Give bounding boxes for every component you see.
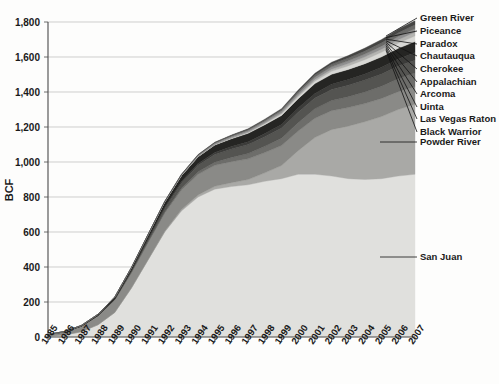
legend-label-las-vegas-raton: Las Vegas Raton <box>420 113 496 124</box>
legend-label-powder-river: Powder River <box>420 136 481 147</box>
y-tick-label: 200 <box>23 297 40 308</box>
y-tick-label: 1,000 <box>15 157 40 168</box>
legend-label-uinta: Uinta <box>420 101 444 112</box>
areas-group <box>48 21 415 337</box>
stacked-area-chart: 02004006008001,0001,2001,4001,6001,800 1… <box>0 0 499 384</box>
legend-label-appalachian: Appalachian <box>420 76 477 87</box>
legend-label-piceance: Piceance <box>420 25 461 36</box>
chart-page: 02004006008001,0001,2001,4001,6001,800 1… <box>0 0 499 384</box>
legend-label-arcoma: Arcoma <box>420 88 456 99</box>
y-tick-label: 1,800 <box>15 17 40 28</box>
y-tick-label: 400 <box>23 262 40 273</box>
legend-label-paradox: Paradox <box>420 38 458 49</box>
legend-label-san-juan: San Juan <box>420 251 462 262</box>
legend-label-chautauqua: Chautauqua <box>420 50 476 61</box>
y-tick-labels-group: 02004006008001,0001,2001,4001,6001,800 <box>15 17 40 343</box>
y-tick-label: 800 <box>23 192 40 203</box>
y-tick-label: 600 <box>23 227 40 238</box>
legend-label-cherokee: Cherokee <box>420 63 463 74</box>
axis-title-group: BCF <box>3 178 15 201</box>
y-tick-label: 1,600 <box>15 52 40 63</box>
legend-label-green-river: Green River <box>420 12 474 23</box>
y-axis-title: BCF <box>3 178 15 201</box>
y-tick-label: 1,400 <box>15 87 40 98</box>
y-tick-label: 1,200 <box>15 122 40 133</box>
